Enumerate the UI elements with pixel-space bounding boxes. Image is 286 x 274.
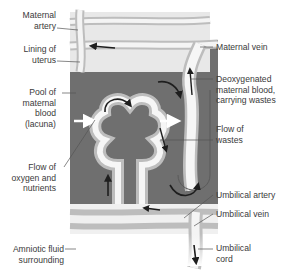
- label-line: blood: [6, 108, 56, 119]
- label-flow-of-wastes: Flow of wastes: [216, 124, 244, 145]
- label-umbilical-cord: Umbilical cord: [216, 243, 251, 264]
- label-line: cord: [216, 254, 251, 265]
- label-line: surrounding: [0, 255, 64, 266]
- label-line: Maternal vein: [216, 42, 268, 53]
- label-maternal-vein: Maternal vein: [216, 42, 268, 53]
- label-line: nutrients: [2, 183, 56, 194]
- label-line: (lacuna): [6, 119, 56, 130]
- label-line: artery: [6, 21, 56, 32]
- label-line: Amniotic fluid: [0, 244, 64, 255]
- label-maternal-artery: Maternal artery: [6, 10, 56, 31]
- label-line: Umbilical vein: [216, 209, 269, 220]
- label-line: Deoxygenated: [216, 74, 276, 85]
- label-lining-of-uterus: Lining of uterus: [6, 44, 56, 65]
- label-line: maternal blood,: [216, 85, 276, 96]
- label-deoxygenated-blood: Deoxygenated maternal blood, carrying wa…: [216, 74, 276, 106]
- label-line: carrying wastes: [216, 95, 276, 106]
- label-line: uterus: [6, 55, 56, 66]
- label-umbilical-vein: Umbilical vein: [216, 209, 269, 220]
- label-amniotic-fluid: Amniotic fluid surrounding: [0, 244, 64, 265]
- label-pool-of-maternal-blood: Pool of maternal blood (lacuna): [6, 87, 56, 129]
- label-line: Maternal: [6, 10, 56, 21]
- label-umbilical-artery: Umbilical artery: [216, 190, 275, 201]
- label-line: oxygen and: [2, 173, 56, 184]
- label-line: Pool of: [6, 87, 56, 98]
- label-line: wastes: [216, 135, 244, 146]
- label-line: Flow of: [2, 162, 56, 173]
- label-line: maternal: [6, 98, 56, 109]
- label-line: Umbilical: [216, 243, 251, 254]
- label-line: Lining of: [6, 44, 56, 55]
- label-line: Flow of: [216, 124, 244, 135]
- label-line: Umbilical artery: [216, 190, 275, 201]
- label-flow-of-oxygen: Flow of oxygen and nutrients: [2, 162, 56, 194]
